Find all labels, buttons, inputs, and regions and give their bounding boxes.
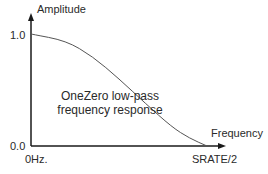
caption-line-2: frequency response bbox=[48, 103, 172, 117]
x-tick-max: SRATE/2 bbox=[192, 153, 237, 165]
chart-canvas bbox=[0, 0, 268, 174]
chart-caption: OneZero low-pass frequency response bbox=[48, 89, 172, 117]
y-axis-arrow-icon bbox=[28, 13, 34, 21]
y-axis-label: Amplitude bbox=[37, 3, 86, 15]
x-axis-label: Frequency bbox=[211, 127, 263, 139]
caption-line-1: OneZero low-pass bbox=[48, 89, 172, 103]
y-tick-min: 0.0 bbox=[10, 140, 25, 152]
y-tick-max: 1.0 bbox=[10, 29, 25, 41]
x-tick-min: 0Hz. bbox=[25, 153, 48, 165]
x-axis-arrow-icon bbox=[218, 143, 226, 149]
